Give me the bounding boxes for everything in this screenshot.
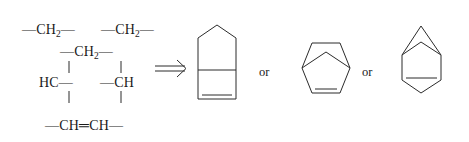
structure-norcarene xyxy=(402,26,441,93)
or-connector-second: or xyxy=(362,66,372,79)
structure-norbornene xyxy=(302,43,350,93)
or-connector-first: or xyxy=(259,66,269,79)
structure-bicyclo-3-2-0-heptene xyxy=(198,25,236,99)
fragment-ch2-top-left: —CH2— xyxy=(22,23,75,39)
fragment-ch2-top-left-suffix: — xyxy=(61,22,75,37)
retrosynthesis-diagram: —CH2— —CH2— —CH2— HC— —CH —CH═CH— or or xyxy=(0,0,469,142)
fragment-chch-bottom: —CH═CH— xyxy=(45,119,123,133)
fragment-ch2-top-left-prefix: —CH xyxy=(22,22,56,37)
fragment-hc-left: HC— xyxy=(39,76,73,90)
fragment-ch-right: —CH xyxy=(100,76,134,90)
retrosynthesis-arrow-icon xyxy=(155,60,186,77)
fragment-ch2-top-right: —CH2— xyxy=(101,23,154,39)
fragment-ch2-top-right-suffix: — xyxy=(140,22,154,37)
fragment-ch2-top-right-prefix: —CH xyxy=(101,22,135,37)
fragment-ch2-middle: —CH2— xyxy=(60,45,113,61)
fragment-ch2-middle-suffix: — xyxy=(99,44,113,59)
fragment-ch2-middle-prefix: —CH xyxy=(60,44,94,59)
